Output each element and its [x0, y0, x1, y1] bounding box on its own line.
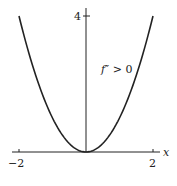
- x-axis-label: x: [163, 146, 170, 159]
- parabola-chart: −2 2 4 x f″ > 0: [0, 0, 177, 186]
- x-min-label: −2: [8, 157, 24, 170]
- y-max-label: 4: [74, 10, 81, 23]
- annotation: f″ > 0: [100, 63, 132, 76]
- x-max-label: 2: [149, 157, 156, 170]
